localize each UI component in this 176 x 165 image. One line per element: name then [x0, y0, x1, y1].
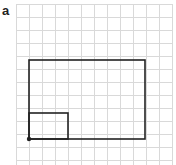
grid-lines: [16, 4, 173, 165]
small-rectangle: [29, 113, 68, 139]
large-rectangle: [29, 60, 145, 139]
grid-diagram: [0, 0, 176, 165]
origin-point: [27, 137, 31, 141]
